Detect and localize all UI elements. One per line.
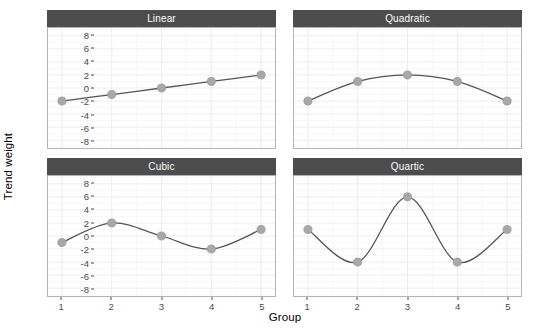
facet-strip-cubic: Cubic [47,158,276,175]
plot-panel-quartic [293,175,522,297]
y-axis-title: Trend weight [0,0,16,333]
data-point [503,225,511,233]
facet-strip-quadratic: Quadratic [293,10,522,27]
x-axis-tick-mark [161,297,162,300]
plot-panel-quadratic [293,27,522,149]
plot-panel-cubic [47,175,276,297]
data-point [157,232,165,240]
plot-svg-quartic [294,176,521,296]
x-axis-tick-mark [211,297,212,300]
x-axis-title: Group [47,311,523,323]
facet-row-top: Linear 86420-2-4-6-8 Quadratic [47,10,522,149]
facet-strip-label-quartic: Quartic [391,162,424,172]
data-point [403,71,411,79]
data-point [157,84,165,92]
data-point [207,77,215,85]
facet-strip-label-cubic: Cubic [148,162,174,172]
x-axis-tick-mark [261,297,262,300]
data-point [58,238,66,246]
x-axis-tick-mark [307,297,308,300]
data-point [304,225,312,233]
facet-quadratic: Quadratic [293,10,522,149]
facet-strip-label-quadratic: Quadratic [385,14,430,24]
facet-strip-quartic: Quartic [293,158,522,175]
facet-quartic: Quartic 12345 [293,158,522,297]
data-point [354,77,362,85]
facet-linear: Linear 86420-2-4-6-8 [47,10,276,149]
chart-root: Trend weight Linear 86420-2-4-6-8 Quadra… [0,0,535,333]
x-axis-tick-mark [457,297,458,300]
data-point [354,258,362,266]
data-point [207,245,215,253]
facet-row-bottom: Cubic 86420-2-4-6-8 12345 Quartic 12345 [47,158,522,297]
data-point [257,225,265,233]
data-point [257,71,265,79]
plot-panel-linear [47,27,276,149]
data-point [304,97,312,105]
data-point [403,193,411,201]
x-axis-tick-mark [61,297,62,300]
data-point [108,90,116,98]
data-point [503,97,511,105]
plot-svg-linear [48,28,275,148]
x-axis-tick-mark [111,297,112,300]
plot-svg-quadratic [294,28,521,148]
facet-cubic: Cubic 86420-2-4-6-8 12345 [47,158,276,297]
facet-strip-label-linear: Linear [147,14,176,24]
x-axis-tick-mark [357,297,358,300]
x-axis-tick-mark [507,297,508,300]
facet-strip-linear: Linear [47,10,276,27]
x-axis-tick-mark [407,297,408,300]
data-point [58,97,66,105]
data-point [453,258,461,266]
data-point [108,219,116,227]
data-point [453,77,461,85]
plot-svg-cubic [48,176,275,296]
facet-grid: Linear 86420-2-4-6-8 Quadratic Cubic [47,10,522,297]
